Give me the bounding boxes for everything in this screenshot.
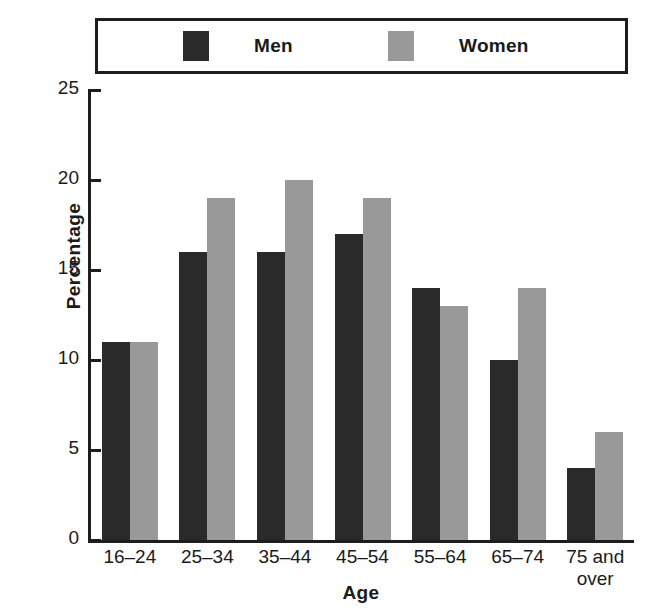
- legend-label-women: Women: [459, 35, 529, 57]
- bar-men-0: [102, 342, 130, 540]
- bar-men-4: [412, 288, 440, 540]
- legend-label-men: Men: [254, 35, 293, 57]
- y-axis-title: Percentage: [63, 176, 85, 336]
- bar-women-1: [207, 198, 235, 540]
- bar-men-5: [490, 360, 518, 540]
- legend-swatch-women: [388, 31, 414, 61]
- bars-layer: [91, 90, 634, 540]
- bar-men-6: [567, 468, 595, 540]
- bar-group: [567, 90, 623, 540]
- y-axis-tick-label: 25: [39, 78, 79, 97]
- y-axis-tick-label: 0: [39, 528, 79, 547]
- bar-group: [257, 90, 313, 540]
- x-axis-line: [88, 540, 634, 543]
- chart-legend: Men Women: [95, 18, 628, 74]
- bar-group: [102, 90, 158, 540]
- bar-women-5: [518, 288, 546, 540]
- legend-entry-men: Men: [183, 21, 293, 71]
- bar-group: [335, 90, 391, 540]
- bar-women-0: [130, 342, 158, 540]
- bar-men-2: [257, 252, 285, 540]
- y-axis-tick-label: 5: [39, 438, 79, 457]
- bar-women-4: [440, 306, 468, 540]
- legend-entry-women: Women: [388, 21, 529, 71]
- bar-group: [412, 90, 468, 540]
- bar-men-3: [335, 234, 363, 540]
- legend-swatch-men: [183, 31, 209, 61]
- bar-group: [179, 90, 235, 540]
- bar-men-1: [179, 252, 207, 540]
- bar-women-3: [363, 198, 391, 540]
- y-axis-tick-label: 10: [39, 348, 79, 367]
- bar-women-6: [595, 432, 623, 540]
- bar-group: [490, 90, 546, 540]
- x-axis-title: Age: [88, 582, 634, 604]
- bar-women-2: [285, 180, 313, 540]
- chart-plot-area: 2520151050: [88, 90, 634, 540]
